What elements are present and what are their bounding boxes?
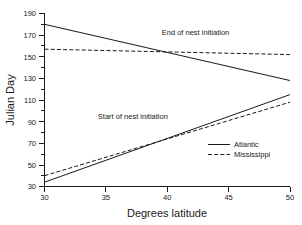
y-axis-ticks bbox=[39, 14, 45, 187]
line-chart: 190 170 150 130 110 90 70 50 30 30 35 40… bbox=[0, 0, 302, 225]
y-tick-label: 190 bbox=[23, 9, 36, 18]
chart-figure: 190 170 150 130 110 90 70 50 30 30 35 40… bbox=[0, 0, 302, 225]
y-tick-label: 70 bbox=[28, 139, 36, 148]
y-axis-title: Julian Day bbox=[4, 74, 16, 126]
y-tick-label: 30 bbox=[28, 182, 36, 191]
y-tick-label: 130 bbox=[23, 74, 36, 83]
annotation-end-of-nest-initiation: End of nest initiation bbox=[162, 28, 230, 37]
chart-legend: Atlantic Mississippi bbox=[208, 140, 271, 159]
x-tick-label: 50 bbox=[286, 193, 294, 202]
x-axis-ticks bbox=[45, 187, 291, 193]
x-axis-title: Degrees latitude bbox=[127, 207, 207, 219]
y-tick-label: 110 bbox=[24, 96, 36, 105]
legend-label-mississippi: Mississippi bbox=[234, 150, 271, 159]
y-tick-label: 170 bbox=[23, 31, 36, 40]
annotation-start-of-nest-initiation: Start of nest initiation bbox=[98, 112, 168, 121]
x-tick-label: 45 bbox=[224, 193, 232, 202]
y-tick-label: 150 bbox=[23, 53, 36, 62]
x-tick-label: 30 bbox=[40, 193, 48, 202]
y-tick-label: 50 bbox=[28, 161, 36, 170]
y-tick-label: 90 bbox=[28, 118, 36, 127]
legend-label-atlantic: Atlantic bbox=[234, 140, 259, 149]
series-line-mississippi-end bbox=[45, 49, 291, 54]
x-tick-label: 40 bbox=[163, 193, 171, 202]
x-tick-label: 35 bbox=[102, 193, 110, 202]
series-line-atlantic-start bbox=[45, 95, 291, 183]
